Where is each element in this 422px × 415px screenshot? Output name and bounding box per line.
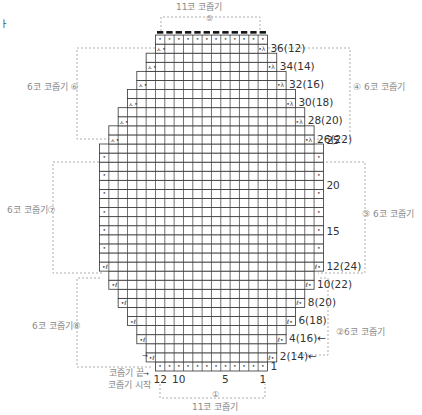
decrease-right-icon: •λ (286, 100, 294, 107)
pickup-dot-icon: • (233, 362, 237, 369)
pickup-dot-icon: • (102, 171, 106, 178)
column-label: 10 (172, 373, 185, 385)
pickup-dot-icon: • (102, 153, 106, 160)
increase-left-icon: •ℓ (130, 318, 137, 325)
pickup-dot-icon: • (317, 208, 321, 215)
row-label: 1 (270, 360, 277, 372)
row-label: 28(20) (308, 114, 343, 126)
increase-left-icon: •ℓ (121, 299, 128, 306)
decrease-right-icon: •λ (268, 63, 276, 70)
increase-right-icon: ℓ• (314, 263, 321, 270)
row-label: 32(16) (289, 78, 324, 90)
increase-left-icon: •ℓ (111, 281, 118, 288)
left-middle-section-label: 6코 코줍기⑦ (7, 206, 56, 215)
bind-off-icon (260, 31, 266, 34)
decrease-right-icon: •λ (277, 81, 285, 88)
row-label: 2(14)← (280, 350, 317, 362)
bottom-section-label: 11코 코줍기 (192, 403, 238, 412)
left-middle-bracket (53, 162, 103, 273)
pickup-start-label: 코줍기 시작 (108, 381, 151, 390)
decrease-right-icon: •λ (305, 136, 313, 143)
right-lower-section-label: ②6코 코줍기 (336, 328, 385, 337)
pickup-dot-icon: • (242, 35, 246, 42)
row-label: 25 (326, 134, 339, 146)
bind-off-icon (185, 31, 191, 34)
pickup-dot-icon: • (102, 226, 106, 233)
pickup-dot-icon: • (168, 362, 172, 369)
pickup-dot-icon: • (214, 362, 218, 369)
pickup-dot-icon: • (102, 189, 106, 196)
column-label: 12 (153, 373, 166, 385)
chart-grid: ••••••••••••••••••••••••••••••••••••ㅅ••λ… (0, 0, 422, 415)
pickup-dot-icon: • (317, 226, 321, 233)
left-lower-section-label: 6코 코줍기⑧ (32, 322, 81, 331)
pickup-dot-icon: • (214, 35, 218, 42)
column-label: 5 (222, 373, 229, 385)
row-label: 30(18) (298, 96, 333, 108)
increase-left-icon: •ℓ (149, 354, 156, 361)
bind-off-icon (157, 31, 163, 34)
pickup-dot-icon: • (177, 35, 181, 42)
row-label: 10(22) (317, 278, 352, 290)
pickup-end-label: 코줍기 끝 (109, 369, 144, 378)
arrow-icon: → (142, 352, 148, 360)
decrease-left-icon: ㅅ• (147, 63, 157, 70)
increase-right-icon: ℓ• (295, 299, 302, 306)
row-label: 6(18) (298, 314, 326, 326)
pickup-dot-icon: • (102, 208, 106, 215)
increase-right-icon: ℓ• (276, 336, 283, 343)
pickup-dot-icon: • (186, 35, 190, 42)
bottom-section-number: ① (212, 391, 219, 399)
decrease-left-icon: ㅅ• (110, 136, 120, 143)
right-upper-section-label: ④ 6코 코줍기 (353, 83, 405, 92)
bind-off-icon (241, 31, 247, 34)
bind-off-icon (194, 31, 200, 34)
row-label: 8(20) (308, 296, 336, 308)
bind-off-icon (204, 31, 210, 34)
decrease-left-icon: ㅅ• (138, 81, 148, 88)
pickup-dot-icon: • (205, 35, 209, 42)
bind-off-icon (166, 31, 172, 34)
row-label: 20 (326, 179, 339, 191)
top-section-label: 11코 코줍기 (176, 3, 222, 12)
pickup-dot-icon: • (252, 362, 256, 369)
pickup-dot-icon: • (261, 35, 265, 42)
top-section-number: ⑤ (206, 15, 213, 23)
row-label: 36(12) (270, 42, 305, 54)
pickup-dot-icon: • (252, 35, 256, 42)
bind-off-icon (176, 31, 182, 34)
pickup-dot-icon: • (317, 153, 321, 160)
pickup-dot-icon: • (158, 35, 162, 42)
pickup-dot-icon: • (261, 362, 265, 369)
pickup-dot-icon: • (186, 362, 190, 369)
column-label: 1 (259, 373, 266, 385)
row-label: 15 (326, 225, 339, 237)
pickup-dot-icon: • (158, 362, 162, 369)
pickup-dot-icon: • (102, 244, 106, 251)
increase-right-icon: ℓ• (304, 281, 311, 288)
decrease-left-icon: ㅅ• (128, 100, 138, 107)
increase-left-icon: •ℓ (139, 336, 146, 343)
decrease-right-icon: •λ (258, 45, 266, 52)
pickup-dot-icon: • (196, 35, 200, 42)
pickup-dot-icon: • (242, 362, 246, 369)
decrease-left-icon: ㅅ• (119, 118, 129, 125)
right-middle-section-label: ③ 6코 코줍기 (362, 210, 414, 219)
pickup-dot-icon: • (317, 171, 321, 178)
pickup-dot-icon: • (205, 362, 209, 369)
row-label: 34(14) (280, 60, 315, 72)
decrease-right-icon: •λ (296, 118, 304, 125)
pickup-dot-icon: • (177, 362, 181, 369)
increase-left-icon: •ℓ (102, 263, 109, 270)
increase-right-icon: ℓ• (286, 318, 293, 325)
pickup-dot-icon: • (224, 362, 228, 369)
arrow-icon: → (143, 370, 149, 378)
decrease-left-icon: ㅅ• (156, 45, 166, 52)
bind-off-icon (213, 31, 219, 34)
pickup-dot-icon: • (317, 244, 321, 251)
bind-off-icon (250, 31, 256, 34)
left-upper-section-label: 6코 코줍기 ⑥ (27, 83, 79, 92)
pickup-dot-icon: • (196, 362, 200, 369)
row-label: 12(24) (326, 260, 361, 272)
pickup-dot-icon: • (168, 35, 172, 42)
